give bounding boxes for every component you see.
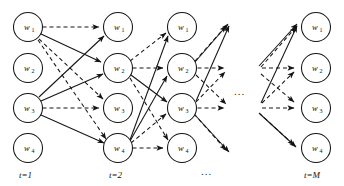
node-label-subscript: 3: [122, 108, 125, 114]
node-l1-w3[interactable]: w 3: [14, 94, 43, 123]
node-label-subscript: 3: [186, 108, 189, 114]
node-label-subscript: 3: [320, 108, 323, 114]
node-label-text: w: [114, 103, 120, 113]
layer-label-t1: t=1: [19, 170, 32, 180]
node-label-subscript: 4: [122, 148, 125, 154]
edge-group-layer3-next: [194, 24, 229, 152]
edge-l1w3-l2w2: [41, 74, 103, 101]
node-l1-w4[interactable]: w 4: [14, 134, 43, 163]
edge-l3w3-next-a: [196, 26, 229, 101]
node-label-text: w: [114, 143, 120, 153]
node-label-subscript: 3: [32, 108, 35, 114]
node-label-subscript: 2: [32, 68, 35, 74]
node-label-text: w: [114, 63, 120, 73]
node-l1-w2[interactable]: w 2: [14, 54, 43, 83]
diagram-canvas: w 1 w 2 w 3 w 4 w 1: [0, 0, 344, 186]
ellipsis-between-layers: ...: [234, 85, 245, 97]
edge-l3w3-next-b: [196, 72, 225, 102]
node-l2-w1[interactable]: w 1: [104, 13, 133, 42]
node-lm-w1[interactable]: w 1: [302, 13, 331, 42]
layer-M-nodes: w 1 w 2 w 3 w 4: [302, 13, 331, 163]
node-lm-w3[interactable]: w 3: [302, 94, 331, 123]
node-l2-w4[interactable]: w 4: [104, 134, 133, 163]
edge-prev-a-lmw1: [259, 24, 297, 66]
node-label-text: w: [312, 22, 318, 32]
node-label-subscript: 1: [186, 27, 189, 33]
edge-group-prev-layerM: [259, 24, 297, 147]
node-label-text: w: [24, 22, 30, 32]
layer-2-nodes: w 1 w 2 w 3 w 4: [104, 13, 133, 163]
node-label-subscript: 4: [320, 148, 323, 154]
node-label-text: w: [178, 22, 184, 32]
layer-label-t2: t=2: [109, 170, 123, 180]
layer-label-tM: t=M: [304, 170, 321, 180]
node-label-text: w: [312, 63, 318, 73]
node-lm-w4[interactable]: w 4: [302, 134, 331, 163]
node-label-text: w: [24, 63, 30, 73]
node-label-subscript: 4: [32, 148, 35, 154]
node-lm-w2[interactable]: w 2: [302, 54, 331, 83]
node-label-text: w: [312, 103, 318, 113]
node-label-subscript: 2: [186, 68, 189, 74]
node-label-subscript: 4: [186, 148, 189, 154]
edge-l3w3-next-e: [194, 114, 226, 150]
edge-prev-a-lmw1b: [261, 27, 296, 67]
node-label-subscript: 2: [122, 68, 125, 74]
layer-3-nodes: w 1 w 2 w 3 w 4: [168, 13, 197, 163]
edge-l1w1-l2w4: [38, 40, 106, 139]
node-label-subscript: 1: [320, 27, 323, 33]
layer-1-nodes: w 1 w 2 w 3 w 4: [14, 13, 43, 163]
node-label-text: w: [24, 103, 30, 113]
node-l3-w1[interactable]: w 1: [168, 13, 197, 42]
edge-l2w4-l3w2: [130, 76, 167, 141]
node-label-text: w: [178, 63, 184, 73]
trellis-diagram: w 1 w 2 w 3 w 4 w 1: [0, 0, 344, 186]
edge-prev-b-lmw1: [261, 26, 297, 103]
edge-group-layer1-layer2: [38, 27, 106, 143]
node-label-text: w: [114, 22, 120, 32]
node-label-text: w: [24, 143, 30, 153]
node-label-subscript: 1: [122, 27, 125, 33]
node-l3-w2[interactable]: w 2: [168, 54, 197, 83]
node-l2-w2[interactable]: w 2: [104, 54, 133, 83]
edge-group-layer2-layer3: [130, 33, 168, 148]
node-l1-w1[interactable]: w 1: [14, 13, 43, 42]
edge-l2w4-l3w1: [130, 36, 168, 140]
edge-l1w3-l2w4: [41, 115, 104, 143]
node-l2-w3[interactable]: w 3: [104, 94, 133, 123]
node-label-subscript: 2: [320, 68, 323, 74]
node-label-text: w: [178, 143, 184, 153]
node-label-subscript: 1: [32, 27, 35, 33]
node-l3-w3[interactable]: w 3: [168, 94, 197, 123]
node-label-text: w: [312, 143, 318, 153]
node-label-text: w: [178, 103, 184, 113]
ellipsis-below-layers: ...: [201, 165, 212, 177]
node-l3-w4[interactable]: w 4: [168, 134, 197, 163]
